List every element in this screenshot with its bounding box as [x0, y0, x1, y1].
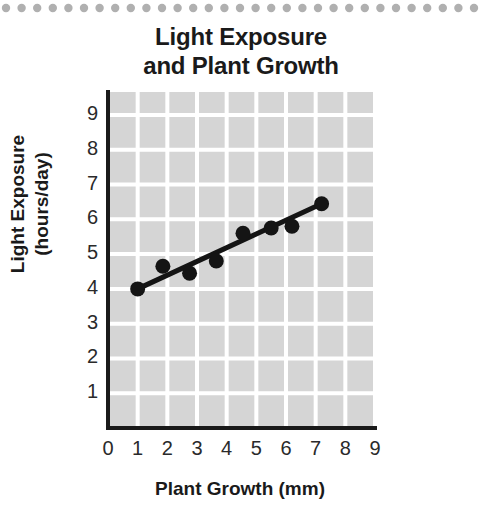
- y-tick-label: 8: [74, 137, 98, 160]
- chart-figure: Light Exposure and Plant Growth 12345678…: [0, 0, 482, 511]
- x-tick-label: 0: [96, 437, 120, 460]
- x-tick-label: 1: [126, 437, 150, 460]
- x-tick-label: 2: [155, 437, 179, 460]
- x-tick-label: 5: [244, 437, 268, 460]
- x-tick-label: 7: [304, 437, 328, 460]
- x-axis-label: Plant Growth (mm): [60, 478, 420, 500]
- x-tick-label: 4: [215, 437, 239, 460]
- data-point: [264, 221, 279, 236]
- data-point: [314, 196, 329, 211]
- data-point: [182, 266, 197, 281]
- data-point: [235, 226, 250, 241]
- y-axis-label-line-1: Light Exposure: [6, 104, 30, 304]
- y-tick-label: 2: [74, 345, 98, 368]
- x-tick-label: 9: [363, 437, 387, 460]
- x-tick-label: 3: [185, 437, 209, 460]
- plot-area-wrapper: 123456789 0123456789 Light Exposure (hou…: [0, 0, 482, 511]
- y-tick-label: 7: [74, 172, 98, 195]
- x-tick-label: 6: [274, 437, 298, 460]
- y-axis-label-line-2: (hours/day): [30, 104, 54, 304]
- data-point: [209, 254, 224, 269]
- y-tick-label: 1: [74, 380, 98, 403]
- data-point: [284, 219, 299, 234]
- x-tick-label: 8: [333, 437, 357, 460]
- y-axis-label: Light Exposure (hours/day): [6, 104, 54, 304]
- y-tick-label: 4: [74, 276, 98, 299]
- y-tick-label: 5: [74, 241, 98, 264]
- scatter-plot-svg: [0, 0, 482, 511]
- data-point: [155, 259, 170, 274]
- y-tick-label: 3: [74, 311, 98, 334]
- plot-background: [108, 92, 375, 428]
- y-tick-label: 9: [74, 102, 98, 125]
- data-point: [130, 281, 145, 296]
- y-tick-label: 6: [74, 206, 98, 229]
